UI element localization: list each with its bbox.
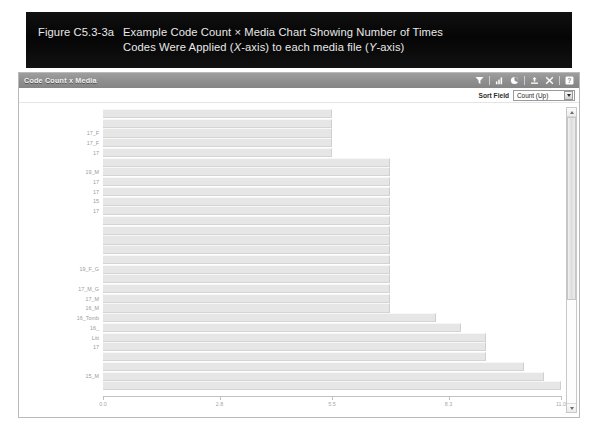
bar[interactable] — [103, 138, 332, 147]
bar-row[interactable] — [103, 216, 561, 225]
x-axis-tick-label: 11.0 — [556, 401, 566, 407]
bar-row[interactable] — [103, 187, 561, 196]
sort-field-value: Count (Up) — [517, 92, 548, 99]
svg-text:?: ? — [568, 77, 572, 84]
bar[interactable] — [103, 352, 486, 361]
y-axis-labels: 17_F17_F1719_M1717151719_F_G17_M_G17_M16… — [19, 103, 103, 417]
bar-row[interactable] — [103, 119, 561, 128]
bar-row[interactable] — [103, 372, 561, 381]
bar[interactable] — [103, 313, 436, 322]
y-axis-tick-label: 17 — [93, 208, 99, 214]
caption-line-2-part-b: -axis) to each media file ( — [241, 41, 369, 53]
y-axis-tick-label: 17_M — [86, 296, 100, 302]
bar[interactable] — [103, 187, 390, 196]
bar[interactable] — [103, 323, 461, 332]
bar[interactable] — [103, 245, 390, 254]
bar-row[interactable] — [103, 158, 561, 167]
bar-row[interactable] — [103, 294, 561, 303]
bar[interactable] — [103, 167, 390, 176]
scrollbar-track[interactable] — [567, 117, 576, 403]
bar-row[interactable] — [103, 303, 561, 312]
bar-row[interactable] — [103, 313, 561, 322]
bar[interactable] — [103, 372, 544, 381]
bar-row[interactable] — [103, 235, 561, 244]
caption-line-2-part-a: Codes Were Applied ( — [123, 41, 234, 53]
bar[interactable] — [103, 381, 561, 390]
help-icon[interactable]: ? — [563, 75, 576, 87]
sort-field-row: Sort Field Count (Up) — [19, 88, 579, 103]
bar[interactable] — [103, 128, 332, 137]
bar-row[interactable] — [103, 177, 561, 186]
bar[interactable] — [103, 274, 390, 283]
x-axis-tick-label: 2.8 — [216, 401, 224, 407]
bar[interactable] — [103, 235, 390, 244]
bar[interactable] — [103, 119, 332, 128]
bar-row[interactable] — [103, 226, 561, 235]
bar[interactable] — [103, 216, 390, 225]
bar[interactable] — [103, 303, 390, 312]
chevron-down-icon[interactable] — [564, 91, 573, 100]
scrollbar-thumb[interactable] — [567, 117, 576, 300]
bar[interactable] — [103, 177, 390, 186]
plot-region: 17_F17_F1719_M1717151719_F_G17_M_G17_M16… — [19, 103, 579, 417]
bars-area — [103, 109, 561, 391]
y-axis-tick-label: 17 — [93, 189, 99, 195]
sort-field-label: Sort Field — [479, 92, 509, 99]
y-axis-tick-label: 19_F_G — [80, 266, 99, 272]
toolbar-separator-1 — [489, 76, 490, 85]
bar[interactable] — [103, 362, 524, 371]
bar-row[interactable] — [103, 265, 561, 274]
x-axis-tick — [220, 396, 221, 400]
bar[interactable] — [103, 294, 390, 303]
bar-row[interactable] — [103, 274, 561, 283]
bar[interactable] — [103, 333, 486, 342]
bar-row[interactable] — [103, 352, 561, 361]
caption-line-1: Example Code Count × Media Chart Showing… — [123, 26, 443, 38]
bar-row[interactable] — [103, 333, 561, 342]
bar[interactable] — [103, 109, 332, 118]
x-axis-tick-label: 0.0 — [99, 401, 107, 407]
bar[interactable] — [103, 206, 390, 215]
bar[interactable] — [103, 148, 332, 157]
bar-row[interactable] — [103, 148, 561, 157]
bar-row[interactable] — [103, 128, 561, 137]
figure-number: Figure C5.3-3a — [38, 25, 114, 40]
export-icon[interactable] — [528, 75, 541, 87]
bar-row[interactable] — [103, 197, 561, 206]
bar-row[interactable] — [103, 323, 561, 332]
bar[interactable] — [103, 265, 390, 274]
bar[interactable] — [103, 158, 390, 167]
scroll-down-button[interactable] — [567, 403, 576, 412]
sort-field-select[interactable]: Count (Up) — [513, 90, 575, 101]
toolbar-separator-2 — [524, 76, 525, 85]
bar[interactable] — [103, 197, 390, 206]
bar-row[interactable] — [103, 109, 561, 118]
chart-application-window: Code Count x Media ? — [18, 72, 580, 418]
bar-row[interactable] — [103, 381, 561, 390]
bar-row[interactable] — [103, 284, 561, 293]
vertical-scrollbar[interactable] — [566, 107, 577, 413]
bar-row[interactable] — [103, 342, 561, 351]
resize-icon[interactable] — [543, 75, 556, 87]
caption-line-2-part-c: -axis) — [376, 41, 404, 53]
y-axis-tick-label: 17 — [93, 344, 99, 350]
bar-chart-icon[interactable] — [493, 75, 506, 87]
bar[interactable] — [103, 342, 486, 351]
filter-icon[interactable] — [473, 75, 486, 87]
bar[interactable] — [103, 284, 390, 293]
y-axis-tick-label: 17_F — [87, 140, 99, 146]
scroll-up-button[interactable] — [567, 108, 576, 117]
bar[interactable] — [103, 226, 390, 235]
bar-row[interactable] — [103, 255, 561, 264]
panel-titlebar: Code Count x Media ? — [19, 73, 579, 88]
pie-chart-icon[interactable] — [508, 75, 521, 87]
bar-row[interactable] — [103, 206, 561, 215]
bar-row[interactable] — [103, 167, 561, 176]
bar-row[interactable] — [103, 362, 561, 371]
bar-row[interactable] — [103, 138, 561, 147]
x-axis-tick-label: 5.5 — [328, 401, 336, 407]
bar[interactable] — [103, 255, 390, 264]
bar-row[interactable] — [103, 245, 561, 254]
y-axis-tick-label: 17_F — [87, 130, 99, 136]
y-axis-tick-label: 16_Tomb — [77, 315, 99, 321]
